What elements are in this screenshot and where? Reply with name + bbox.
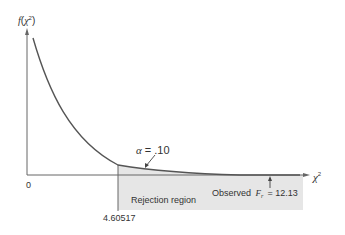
origin-label: 0 <box>26 180 31 190</box>
x-axis-label: χ2 <box>312 171 322 183</box>
chi-square-chart: f(χ2) χ2 0 4.60517 α= .10 Rejection regi… <box>0 0 345 235</box>
observed-label: Observed Fr= 12.13 <box>212 188 298 199</box>
y-axis-arrow-icon <box>25 28 29 35</box>
x-axis-arrow-icon <box>303 173 310 177</box>
critical-value-label: 4.60517 <box>103 213 136 223</box>
rejection-region-label: Rejection region <box>131 195 196 205</box>
y-axis-label: f(χ2) <box>18 15 35 26</box>
alpha-label: α= .10 <box>136 144 170 156</box>
